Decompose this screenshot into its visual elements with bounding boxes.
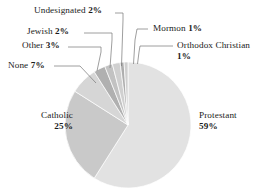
label-jewish: Jewish 2%: [27, 26, 69, 37]
label-catholic: Catholic 25%: [25, 110, 73, 131]
label-mormon: Mormon 1%: [153, 23, 202, 34]
label-none: None 7%: [8, 60, 45, 71]
label-undesignated-pct: 2%: [88, 5, 102, 15]
label-other-pct: 3%: [46, 40, 60, 50]
leader-line-other: [68, 47, 101, 71]
label-orthodox-christian: Orthodox Christian 1%: [177, 40, 259, 61]
label-catholic-name: Catholic: [41, 110, 73, 120]
label-orthodox-christian-pct: 1%: [177, 51, 259, 62]
leader-line-orthodox-christian: [138, 46, 174, 64]
label-other: Other 3%: [22, 40, 60, 51]
label-mormon-name: Mormon: [153, 23, 186, 33]
label-other-name: Other: [22, 40, 43, 50]
label-none-name: None: [8, 60, 28, 70]
label-mormon-pct: 1%: [188, 23, 202, 33]
label-orthodox-christian-name: Orthodox Christian: [177, 40, 250, 50]
label-protestant-name: Protestant: [199, 110, 237, 120]
label-protestant-pct: 59%: [199, 121, 254, 132]
pie-chart: Undesignated 2% Jewish 2% Other 3% None …: [0, 0, 259, 193]
label-none-pct: 7%: [31, 60, 45, 70]
leader-line-jewish: [84, 33, 112, 68]
label-jewish-pct: 2%: [55, 26, 69, 36]
label-catholic-pct: 25%: [25, 121, 73, 132]
label-undesignated-name: Undesignated: [34, 5, 86, 15]
label-undesignated: Undesignated 2%: [34, 5, 102, 16]
leader-line-undesignated: [115, 13, 123, 66]
label-protestant: Protestant 59%: [199, 110, 254, 131]
label-jewish-name: Jewish: [27, 26, 53, 36]
leader-line-mormon: [134, 29, 149, 64]
